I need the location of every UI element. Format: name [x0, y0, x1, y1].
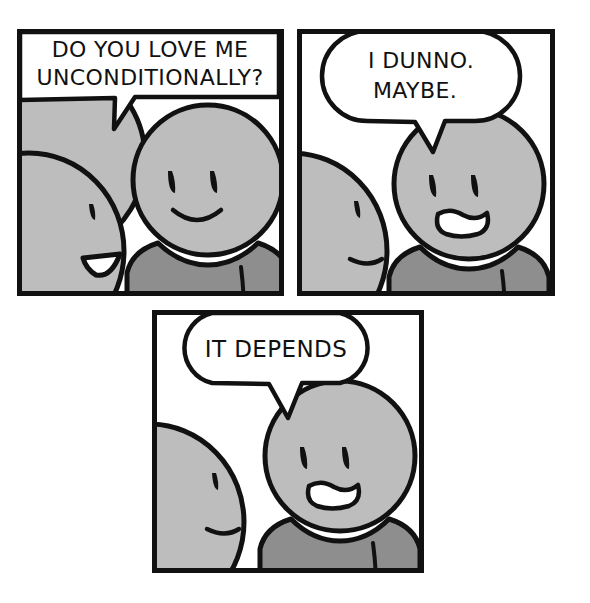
comic-panel-2: I DUNNO. MAYBE. — [297, 29, 555, 296]
panel-1-speech-line-2: UNCONDITIONALLY? — [37, 65, 264, 90]
panel-2-speech-line-1: I DUNNO. — [368, 48, 474, 73]
comic-panel-3: IT DEPENDS — [152, 310, 424, 573]
comic-panel-1: DO YOU LOVE ME UNCONDITIONALLY? — [17, 29, 284, 296]
panel-3-artwork: IT DEPENDS — [152, 310, 424, 573]
comic-strip: DO YOU LOVE ME UNCONDITIONALLY? — [0, 0, 590, 603]
panel-1-artwork: DO YOU LOVE ME UNCONDITIONALLY? — [17, 29, 284, 296]
panel-1-right-character — [127, 105, 284, 296]
panel-2-left-character — [297, 153, 387, 296]
panel-2-right-mouth-worried — [437, 211, 488, 237]
panel-3-speech-line-1: IT DEPENDS — [205, 336, 347, 362]
panel-3-left-character — [152, 424, 244, 573]
panel-3-right-mouth-worried — [308, 483, 359, 509]
panel-2-artwork: I DUNNO. MAYBE. — [297, 29, 555, 296]
panel-1-right-head — [133, 105, 283, 255]
panel-2-right-character — [389, 109, 550, 296]
panel-2-speech-line-2: MAYBE. — [373, 78, 457, 103]
panel-1-speech-line-1: DO YOU LOVE ME — [52, 37, 249, 62]
